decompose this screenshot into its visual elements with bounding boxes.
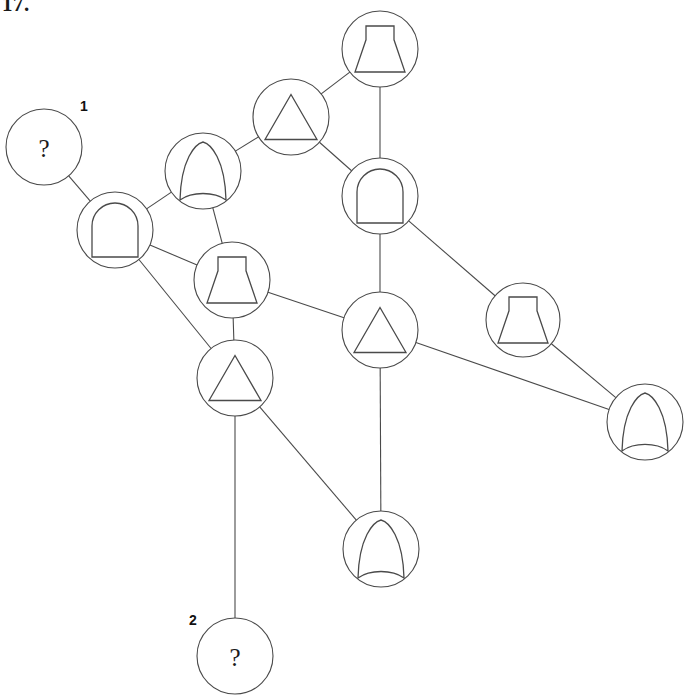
puzzle-canvas: 17. ?? 12 [0,0,685,695]
graph-node-triangle[interactable] [253,79,329,155]
graph-edge [69,176,91,201]
graph-node-triangle[interactable] [197,340,273,416]
graph-node-bell[interactable] [342,11,418,87]
question-mark-glyph: ? [229,644,240,671]
node-index-label: 1 [80,98,88,114]
graph-edge [150,245,197,265]
graph-edge [233,318,234,340]
graph-node-bell[interactable] [486,283,560,357]
graph-edge [147,192,172,209]
graph-edge [321,72,350,94]
graph-node-pointed-arch[interactable] [165,133,241,209]
nodes-layer: ?? [6,11,683,694]
graph-edge [260,407,357,520]
graph-node-pointed-arch[interactable] [607,384,683,460]
graph-node-pointed-arch[interactable] [343,511,419,587]
graph-edge [268,292,344,318]
graph-edge [551,344,615,398]
graph-node-triangle[interactable] [342,292,418,368]
graph-edge [409,221,495,296]
graph-edge [235,137,258,151]
graph-edge [380,368,381,511]
graph-edge [213,208,222,244]
graph-edge [319,142,351,171]
node-index-label: 2 [189,612,197,628]
question-mark-glyph: ? [38,135,49,162]
graph-diagram: ?? 12 [0,0,685,695]
graph-node-bell[interactable] [194,242,270,318]
